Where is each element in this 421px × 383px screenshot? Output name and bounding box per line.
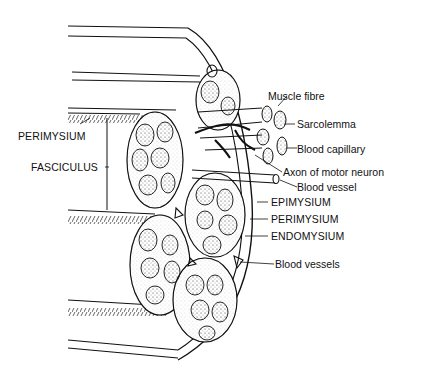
muscle-diagram: Muscle fibre Sarcolemma Blood capillary … [0,0,421,383]
label-perimysium-right: PERIMYSIUM [271,214,339,225]
label-axon-motor-neuron: Axon of motor neuron [283,167,384,178]
label-perimysium-left: PERIMYSIUM [18,131,86,142]
label-blood-vessels: Blood vessels [275,259,340,270]
label-blood-vessel: Blood vessel [297,182,357,193]
label-blood-capillary: Blood capillary [297,144,365,155]
label-muscle-fibre: Muscle fibre [268,91,325,102]
label-fasciculus: FASCICULUS [31,162,98,173]
label-sarcolemma: Sarcolemma [297,119,356,130]
label-epimysium: EPIMYSIUM [271,197,331,208]
muscle-illustration [0,0,421,383]
label-endomysium: ENDOMYSIUM [271,231,344,242]
